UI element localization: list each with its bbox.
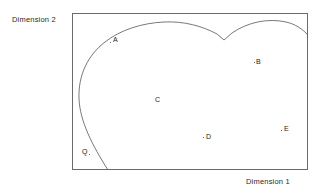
boundary-curve-layer [72, 13, 308, 170]
dimension-plot-figure: Dimension 2 A B C D E Q Dimension 1 [0, 0, 323, 192]
point-label-a: A [113, 36, 118, 44]
x-axis-label: Dimension 1 [246, 177, 290, 187]
region-boundary-svg [72, 13, 308, 170]
point-label-d: D [206, 133, 211, 141]
y-axis-label: Dimension 2 [12, 15, 56, 25]
point-label-e: E [284, 125, 289, 133]
point-label-c: C [155, 96, 160, 104]
point-label-b: B [256, 58, 261, 66]
point-label-q: Q [82, 148, 87, 156]
